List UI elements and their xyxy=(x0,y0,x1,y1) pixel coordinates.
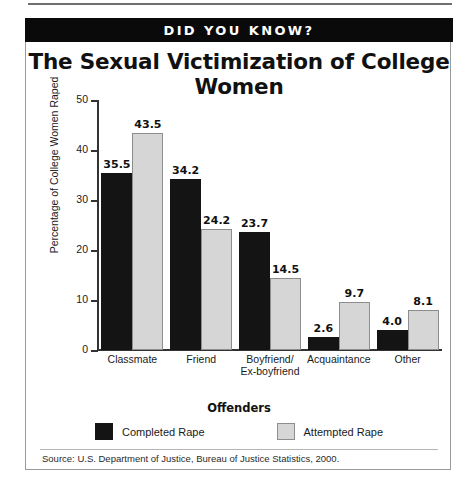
y-tick-label: 0 xyxy=(48,343,88,355)
bar-groups: 35.543.5Classmate34.224.2Friend23.714.5B… xyxy=(98,100,442,350)
legend-swatch-completed xyxy=(95,423,113,440)
bar-attempted-rape: 43.5 xyxy=(132,133,163,351)
x-category-label: Classmate xyxy=(108,353,158,365)
bar-value-label: 23.7 xyxy=(241,217,268,230)
bar-completed-rape: 23.7 xyxy=(239,232,270,351)
legend-swatch-attempted xyxy=(277,423,295,440)
y-tick-label: 40 xyxy=(48,143,88,155)
bar-attempted-rape: 14.5 xyxy=(270,278,301,351)
figure-container: DID YOU KNOW? The Sexual Victimization o… xyxy=(25,18,451,470)
bar-group: 23.714.5Boyfriend/Ex-boyfriend xyxy=(239,100,301,350)
x-category-label: Friend xyxy=(186,353,216,365)
y-tick-mark xyxy=(91,350,98,352)
bar-group: 4.08.1Other xyxy=(377,100,439,350)
y-tick-mark xyxy=(91,300,98,302)
bar-completed-rape: 2.6 xyxy=(308,337,339,350)
legend-item: Completed Rape xyxy=(95,423,205,440)
bar-completed-rape: 4.0 xyxy=(377,330,408,350)
bar-group: 2.69.7Acquaintance xyxy=(308,100,370,350)
y-tick-label: 30 xyxy=(48,193,88,205)
bar-group: 35.543.5Classmate xyxy=(101,100,163,350)
bar-group: 34.224.2Friend xyxy=(170,100,232,350)
source-separator xyxy=(40,449,438,450)
legend-label: Attempted Rape xyxy=(304,426,384,438)
bar-attempted-rape: 24.2 xyxy=(201,229,232,350)
y-tick-mark xyxy=(91,250,98,252)
bar-value-label: 4.0 xyxy=(382,315,402,328)
x-category-label: Other xyxy=(394,353,420,365)
y-tick-label: 10 xyxy=(48,293,88,305)
bar-value-label: 8.1 xyxy=(413,295,433,308)
x-category-label: Acquaintance xyxy=(307,353,371,365)
bar-attempted-rape: 9.7 xyxy=(339,302,370,351)
legend-label: Completed Rape xyxy=(122,426,205,438)
bar-value-label: 35.5 xyxy=(103,158,130,171)
y-tick-mark xyxy=(91,100,98,102)
y-tick-mark xyxy=(91,150,98,152)
bar-completed-rape: 34.2 xyxy=(170,179,201,350)
chart-legend: Completed RapeAttempted Rape xyxy=(26,423,452,440)
bar-value-label: 43.5 xyxy=(134,118,161,131)
bar-attempted-rape: 8.1 xyxy=(408,310,439,351)
bar-value-label: 2.6 xyxy=(314,322,334,335)
bar-value-label: 34.2 xyxy=(172,164,199,177)
bar-value-label: 9.7 xyxy=(345,287,365,300)
page-top-rule xyxy=(28,3,452,5)
x-axis-title: Offenders xyxy=(26,401,452,415)
y-tick-mark xyxy=(91,200,98,202)
source-note: Source: U.S. Department of Justice, Bure… xyxy=(42,453,339,464)
bar-completed-rape: 35.5 xyxy=(101,173,132,351)
x-category-label: Boyfriend/Ex-boyfriend xyxy=(241,353,300,377)
y-tick-label: 20 xyxy=(48,243,88,255)
y-tick-label: 50 xyxy=(48,93,88,105)
plot-area: Percentage of College Women Raped 010203… xyxy=(26,19,452,471)
legend-item: Attempted Rape xyxy=(277,423,384,440)
bar-value-label: 24.2 xyxy=(203,214,230,227)
bar-value-label: 14.5 xyxy=(272,263,299,276)
